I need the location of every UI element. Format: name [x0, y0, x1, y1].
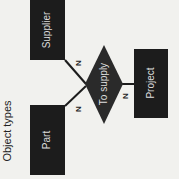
cardinality-part: N — [74, 104, 84, 114]
cardinality-project: N — [121, 91, 131, 101]
connector-part — [65, 86, 86, 106]
caption-object-types: Object types — [1, 91, 15, 171]
entity-project-label: Project — [145, 48, 157, 118]
entity-supplier-label: Supplier — [41, 0, 53, 65]
entity-part-label: Part — [41, 105, 53, 175]
cardinality-supplier: N — [74, 58, 84, 68]
relationship-label: To supply — [98, 49, 110, 119]
